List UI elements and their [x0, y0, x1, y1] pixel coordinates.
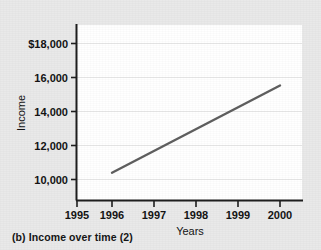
y-tick-label-3: 12,000: [34, 140, 68, 152]
y-axis-title: Income: [15, 95, 27, 131]
x-tick-label-0: 1995: [65, 209, 89, 221]
figure-panel: $18,000 16,000 14,000 12,000 10,000 1995…: [0, 0, 321, 250]
x-axis-tick-labels: 1995 1996 1997 1998 1999 2000: [65, 209, 292, 221]
y-tick-label-0: $18,000: [28, 38, 68, 50]
x-tick-label-5: 2000: [268, 209, 292, 221]
figure-caption: (b) Income over time (2): [12, 231, 133, 243]
income-over-time-line-chart: $18,000 16,000 14,000 12,000 10,000 1995…: [0, 0, 321, 250]
y-tick-label-1: 16,000: [34, 72, 68, 84]
x-axis-ticks: [77, 201, 280, 207]
y-axis-tick-labels: $18,000 16,000 14,000 12,000 10,000: [28, 38, 68, 186]
x-tick-label-4: 1999: [226, 209, 250, 221]
plot-area-background: [77, 25, 302, 200]
y-tick-label-4: 10,000: [34, 174, 68, 186]
x-axis-title: Years: [176, 225, 204, 237]
x-tick-label-2: 1997: [142, 209, 166, 221]
y-tick-label-2: 14,000: [34, 106, 68, 118]
x-tick-label-3: 1998: [184, 209, 208, 221]
x-tick-label-1: 1996: [100, 209, 124, 221]
